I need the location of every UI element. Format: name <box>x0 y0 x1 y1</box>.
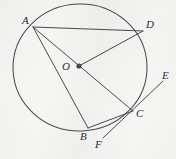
geometry-figure: A B C D E F O <box>0 0 176 159</box>
vertex-label-A: A <box>22 15 29 26</box>
chord-A-B <box>33 27 88 128</box>
chord-B-C <box>88 111 133 128</box>
chord-A-D <box>33 27 143 31</box>
vertex-label-F: F <box>95 139 102 150</box>
vertex-label-D: D <box>146 19 154 30</box>
diameter-A-C <box>33 27 133 111</box>
center-point-O <box>76 63 81 68</box>
radius-D-O <box>79 31 143 66</box>
vertex-label-E: E <box>162 70 169 81</box>
tangent-line-E-F <box>103 81 163 138</box>
vertex-label-C: C <box>136 108 143 119</box>
vertex-label-B: B <box>80 131 87 142</box>
vertex-label-O: O <box>62 61 70 72</box>
